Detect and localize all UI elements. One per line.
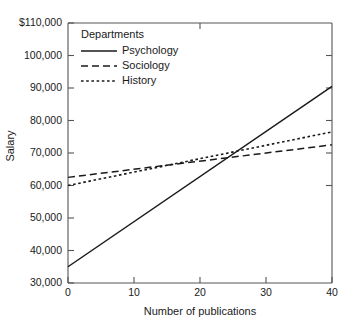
legend-swatch-dashed-icon — [80, 60, 118, 72]
x-tick-label-30: 30 — [256, 287, 276, 298]
x-tick-label-40: 40 — [322, 287, 342, 298]
y-tick-label-50000: 50,000 — [0, 212, 62, 223]
legend: Departments Psychology Sociology History — [80, 28, 178, 88]
y-tick-label-110000: $110,000 — [0, 17, 62, 28]
legend-item-sociology: Sociology — [80, 58, 178, 73]
legend-item-history: History — [80, 73, 178, 88]
x-tick-label-0: 0 — [58, 287, 78, 298]
legend-label-sociology: Sociology — [122, 60, 170, 71]
y-tick-label-90000: 90,000 — [0, 82, 62, 93]
series-line-psychology — [68, 86, 332, 266]
y-axis-title: Salary — [4, 116, 16, 176]
x-tick-label-10: 10 — [124, 287, 144, 298]
legend-title: Departments — [80, 28, 178, 40]
x-axis-title: Number of publications — [68, 305, 332, 317]
legend-item-psychology: Psychology — [80, 43, 178, 58]
salary-by-publications-line-chart: $110,000 100,000 90,000 80,000 70,000 60… — [0, 0, 358, 329]
legend-swatch-solid-icon — [80, 45, 118, 57]
legend-label-history: History — [122, 75, 156, 86]
y-tick-label-100000: 100,000 — [0, 50, 62, 61]
y-axis-ticks-right — [326, 56, 332, 186]
x-tick-label-20: 20 — [190, 287, 210, 298]
legend-swatch-dotted-icon — [80, 75, 118, 87]
y-axis-ticks — [68, 23, 74, 283]
y-tick-label-60000: 60,000 — [0, 180, 62, 191]
legend-label-psychology: Psychology — [122, 45, 178, 56]
series-line-sociology — [68, 145, 332, 178]
y-tick-label-30000: 30,000 — [0, 277, 62, 288]
y-tick-label-40000: 40,000 — [0, 245, 62, 256]
